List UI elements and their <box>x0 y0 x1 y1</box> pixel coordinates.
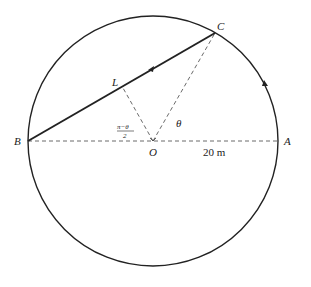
label-L: L <box>111 76 118 88</box>
label-C: C <box>217 20 225 32</box>
label-radius: 20 m <box>203 146 226 158</box>
label-O: O <box>149 146 157 158</box>
angle-mark <box>150 138 156 141</box>
label-B: B <box>14 135 21 147</box>
frac-denominator: 2 <box>123 132 127 140</box>
circle-diagram: C L B A O θ 20 m π−θ 2 <box>0 0 311 287</box>
perpendicular-OL <box>123 88 153 141</box>
label-theta: θ <box>176 117 182 129</box>
radius-OC <box>153 33 215 141</box>
frac-numerator: π−θ <box>117 123 129 131</box>
label-A: A <box>283 135 291 147</box>
